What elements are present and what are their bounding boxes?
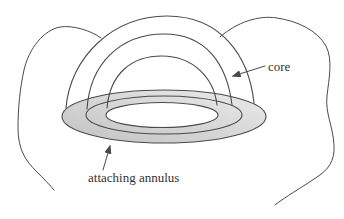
inner-attaching-circle [106, 103, 218, 128]
core-label: core [268, 59, 291, 74]
attaching-annulus-label: attaching annulus [88, 170, 179, 185]
annulus-arrow [103, 146, 110, 170]
handle-attachment-figure: core attaching annulus [0, 0, 344, 219]
diagram-canvas: core attaching annulus [0, 0, 344, 219]
core-arrow [233, 66, 265, 76]
